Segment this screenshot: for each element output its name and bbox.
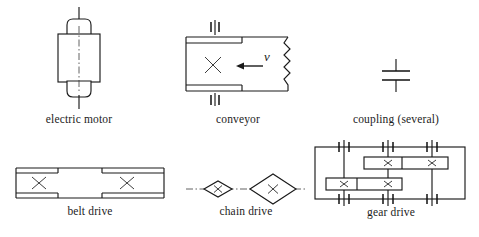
symbol-conveyor: v bbox=[180, 16, 304, 108]
caption-electric-motor: electric motor bbox=[18, 113, 140, 125]
symbol-gear-drive bbox=[312, 140, 468, 206]
symbol-belt-drive bbox=[14, 164, 166, 202]
caption-gear-drive: gear drive bbox=[335, 206, 447, 218]
caption-belt-drive: belt drive bbox=[30, 205, 150, 217]
caption-conveyor: conveyor bbox=[178, 113, 298, 125]
conveyor-velocity-label: v bbox=[264, 49, 270, 64]
caption-coupling: coupling (several) bbox=[330, 113, 462, 125]
symbol-electric-motor bbox=[44, 4, 114, 112]
symbol-chain-drive bbox=[184, 172, 308, 206]
diagram-canvas: electric motor bbox=[0, 0, 479, 237]
symbol-coupling bbox=[374, 58, 418, 94]
caption-chain-drive: chain drive bbox=[190, 205, 302, 217]
